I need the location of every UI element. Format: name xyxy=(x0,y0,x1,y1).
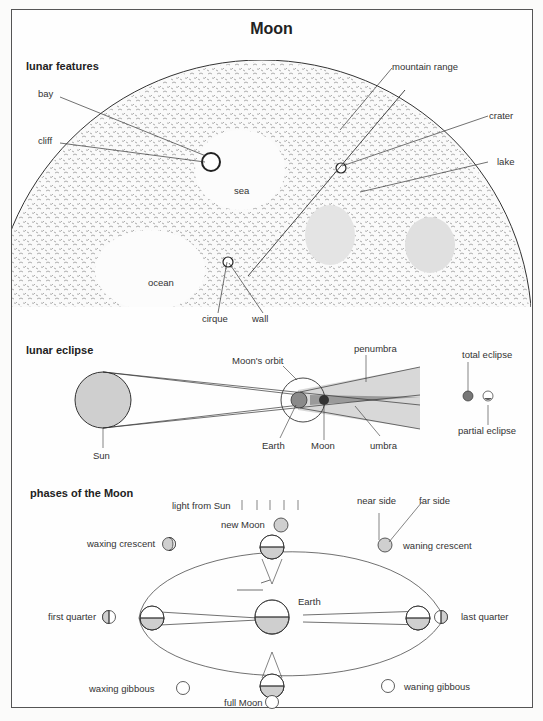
label-mountain-range: mountain range xyxy=(392,61,458,72)
label-lake: lake xyxy=(497,156,514,167)
label-phases-earth: Earth xyxy=(298,596,321,607)
label-sea: sea xyxy=(234,185,249,196)
label-sun: Sun xyxy=(93,450,110,461)
label-waning-crescent: waning crescent xyxy=(403,540,472,551)
label-wall: wall xyxy=(252,313,268,324)
label-partial-eclipse: partial eclipse xyxy=(458,425,516,436)
label-waning-gibbous: waning gibbous xyxy=(404,681,470,692)
eclipse-diagram xyxy=(75,355,493,448)
label-umbra: umbra xyxy=(370,440,397,451)
heading-lunar-eclipse: lunar eclipse xyxy=(26,344,93,356)
label-first-quarter: first quarter xyxy=(48,611,96,622)
phases-diagram xyxy=(103,500,448,709)
label-moon: Moon xyxy=(311,440,335,451)
label-bay: bay xyxy=(38,88,53,99)
label-cirque: cirque xyxy=(202,313,228,324)
heading-phases: phases of the Moon xyxy=(30,487,133,499)
label-last-quarter: last quarter xyxy=(461,611,509,622)
label-far-side: far side xyxy=(419,495,450,506)
label-total-eclipse: total eclipse xyxy=(462,349,512,360)
label-full-moon: full Moon xyxy=(224,697,263,708)
moon-surface xyxy=(0,60,532,600)
label-moons-orbit: Moon's orbit xyxy=(232,355,283,366)
label-ocean: ocean xyxy=(148,277,174,288)
label-cliff: cliff xyxy=(38,135,52,146)
label-new-moon: new Moon xyxy=(221,519,265,530)
label-light-from-sun: light from Sun xyxy=(172,500,231,511)
label-earth: Earth xyxy=(262,440,285,451)
label-penumbra: penumbra xyxy=(354,343,397,354)
label-waxing-gibbous: waxing gibbous xyxy=(89,683,155,694)
label-waxing-crescent: waxing crescent xyxy=(87,538,155,549)
label-crater: crater xyxy=(489,110,513,121)
label-near-side: near side xyxy=(357,495,396,506)
heading-lunar-features: lunar features xyxy=(26,60,99,72)
